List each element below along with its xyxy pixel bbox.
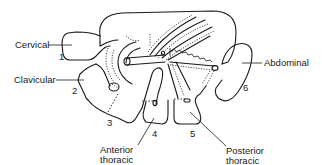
sac-3-divider	[108, 94, 118, 112]
label-abdominal: Abdominal	[264, 57, 309, 68]
posterior-thoracic-leader-line	[190, 112, 226, 146]
sac-3	[88, 100, 142, 123]
cervical-sac	[62, 32, 110, 60]
bronchial-tree	[100, 15, 218, 98]
label-posterior-thoracic-2: thoracic	[226, 155, 260, 165]
number-4: 4	[152, 128, 157, 139]
number-3: 3	[107, 117, 112, 128]
label-cervical: Cervical	[15, 39, 49, 50]
anterior-thoracic-sac	[142, 68, 163, 108]
posterior-thoracic-sac	[174, 86, 206, 124]
clavicular-bulb	[109, 83, 119, 91]
number-2: 2	[72, 85, 77, 96]
clavicular-sac	[78, 64, 96, 100]
number-1: 1	[59, 51, 64, 62]
label-anterior-thoracic-2: thoracic	[100, 154, 134, 165]
label-clavicular: Clavicular	[14, 74, 56, 85]
number-5: 5	[190, 128, 195, 139]
lung-outline	[100, 11, 236, 64]
number-6: 6	[243, 82, 248, 93]
air-sac-diagram: Cervical Clavicular Abdominal Anterior t…	[0, 0, 322, 165]
clavicular-sac-inner	[96, 64, 110, 86]
